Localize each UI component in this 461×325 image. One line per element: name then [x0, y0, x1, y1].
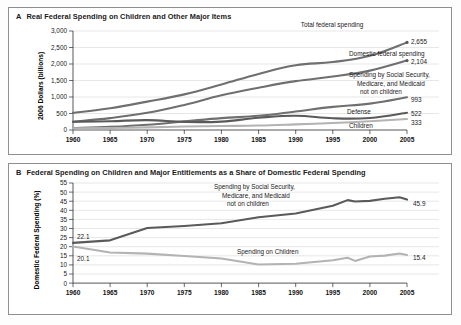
panel-a-ytick-1500: 1,500 [51, 77, 67, 84]
annotation-entitlements-line3: not on children [360, 88, 402, 95]
panel-a-xtick-2000: 2000 [363, 136, 378, 143]
value-domestic-federal-spending: 2,104 [411, 58, 427, 65]
value-total-federal-spending: 2,655 [411, 38, 427, 45]
panel-a-xtick-1970: 1970 [140, 136, 155, 143]
panel-b-ytick-20: 20 [60, 243, 68, 250]
panel-b-plot: Domestic Federal Spending (%) [9, 164, 451, 314]
annotation-defense: Defense [347, 108, 371, 115]
value-children: 333 [411, 119, 422, 126]
panel-b-xtick-2005: 2005 [400, 289, 415, 296]
panel-a-ytick-500: 500 [56, 110, 67, 117]
panel-b-ytick-15: 15 [60, 252, 68, 259]
panel-b-ytick-35: 35 [60, 216, 68, 223]
figure-sheet: AReal Federal Spending on Children and O… [0, 0, 461, 325]
value-entitlements: 993 [411, 96, 422, 103]
panel-b-xtick-1965: 1965 [103, 289, 118, 296]
panel-a-xtick-1995: 1995 [325, 136, 340, 143]
panel-b-xtick-2000: 2000 [363, 289, 378, 296]
panel-a-x-tickmarks [73, 130, 407, 134]
annotation-b-entitlements-line3: not on children [227, 200, 269, 207]
annotation-b-entitlements-line1: Spending by Social Security, [214, 183, 295, 191]
annotation-children: Children [349, 122, 373, 129]
panel-a-xtick-1965: 1965 [103, 136, 118, 143]
panel-a-svg: 2006 Dollars (billions) [9, 8, 451, 154]
panel-b-y-ticklabels: 55 50 45 40 35 30 25 20 15 10 5 0 [60, 179, 68, 286]
annotation-entitlements-line1: Spending by Social Security, [349, 71, 430, 79]
annotation-b-entitlements-line2: Medicare, and Medicaid [222, 192, 290, 199]
panel-b-xtick-1970: 1970 [140, 289, 155, 296]
panel-b-ytick-0: 0 [63, 280, 67, 287]
panel-a-y-axis-title: 2006 Dollars (billions) [37, 52, 45, 120]
panel-a-xtick-1985: 1985 [251, 136, 266, 143]
panel-b-x-ticklabels: 1960 1965 1970 1975 1980 1985 1990 1995 … [66, 289, 415, 296]
panel-b-y-tickmarks [69, 183, 73, 283]
panel-b-xtick-1960: 1960 [66, 289, 81, 296]
panel-b-xtick-1975: 1975 [177, 289, 192, 296]
panel-b-ytick-40: 40 [60, 207, 68, 214]
panel-b-ytick-5: 5 [63, 270, 67, 277]
value-b-entitlements-start: 22.1 [77, 233, 90, 240]
panel-b-x-tickmarks [73, 283, 407, 287]
panel-a-xtick-1990: 1990 [288, 136, 303, 143]
annotation-total-federal-spending: Total federal spending [301, 21, 364, 29]
panel-a-ytick-2000: 2,000 [51, 60, 67, 67]
panel-a-ytick-0: 0 [63, 126, 67, 133]
value-b-children-start: 20.1 [77, 255, 90, 262]
panel-a-plot: 2006 Dollars (billions) [9, 8, 451, 154]
panel-b-xtick-1995: 1995 [325, 289, 340, 296]
panel-b-ytick-25: 25 [60, 234, 68, 241]
panel-a-ytick-1000: 1,000 [51, 93, 67, 100]
panel-b-ytick-50: 50 [60, 189, 68, 196]
panel-a-xtick-1975: 1975 [177, 136, 192, 143]
panel-b-xtick-1985: 1985 [251, 289, 266, 296]
panel-b-ytick-10: 10 [60, 261, 68, 268]
panel-b-svg: Domestic Federal Spending (%) [9, 164, 451, 314]
panel-b-y-axis-title: Domestic Federal Spending (%) [33, 191, 41, 290]
panel-b-xtick-1980: 1980 [214, 289, 229, 296]
panel-b-xtick-1990: 1990 [288, 289, 303, 296]
panel-a-xtick-1960: 1960 [66, 136, 81, 143]
panel-b-ytick-45: 45 [60, 198, 68, 205]
panel-a: AReal Federal Spending on Children and O… [8, 7, 452, 155]
endpoint-total [405, 41, 408, 44]
annotation-entitlements-line2: Medicare, and Medicaid [357, 80, 425, 87]
endpoint-domestic [405, 59, 408, 62]
panel-a-xtick-1980: 1980 [214, 136, 229, 143]
panel-a-y-ticklabels: 3,000 2,500 2,000 1,500 1,000 500 0 [51, 27, 67, 133]
annotation-b-spending-on-children: Spending on Children [237, 248, 299, 256]
value-b-entitlements-end: 45.9 [413, 200, 426, 207]
panel-a-ytick-2500: 2,500 [51, 44, 67, 51]
panel-b-ytick-55: 55 [60, 179, 68, 186]
panel-b-ytick-30: 30 [60, 225, 68, 232]
panel-a-ytick-3000: 3,000 [51, 27, 67, 34]
panel-a-xtick-2005: 2005 [400, 136, 415, 143]
panel-a-y-tickmarks [69, 31, 73, 130]
panel-b: BFederal Spending on Children and Major … [8, 163, 452, 315]
value-defense: 522 [411, 110, 422, 117]
panel-a-x-ticklabels: 1960 1965 1970 1975 1980 1985 1990 1995 … [66, 136, 415, 143]
value-b-children-end: 15.4 [413, 254, 426, 261]
